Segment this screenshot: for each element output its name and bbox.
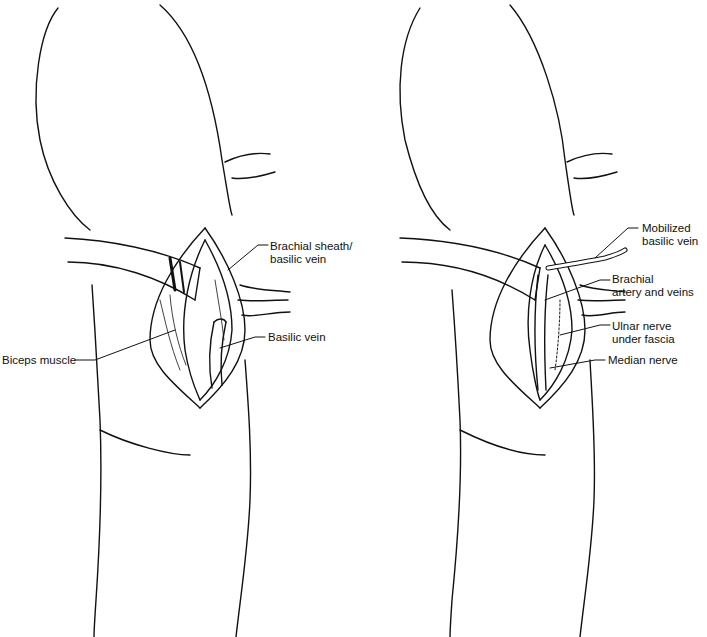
label-brachial-sheath-basilic-vein: Brachial sheath/ basilic vein [270,240,352,266]
right-incision [490,228,625,408]
left-retractor [65,238,200,300]
leader-brachial-sheath [228,245,268,270]
left-incision [150,228,290,408]
surgical-illustration [0,0,707,637]
leader-biceps-muscle [75,330,175,360]
right-retractor [400,238,540,300]
left-arm-outline [36,5,275,637]
label-biceps-muscle: Biceps muscle [2,354,76,367]
label-brachial-artery-and-veins: Brachial artery and veins [612,273,694,299]
label-median-nerve: Median nerve [608,354,678,367]
label-mobilized-basilic-vein: Mobilized basilic vein [642,222,698,248]
label-basilic-vein: Basilic vein [268,331,326,344]
label-ulnar-nerve-under-fascia: Ulnar nerve under fascia [612,320,675,346]
